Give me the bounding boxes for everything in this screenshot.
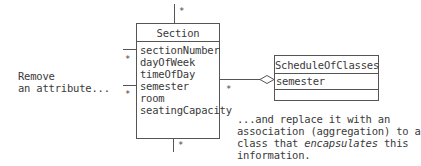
annotation-replace-line1: ...and replace it with an: [237, 113, 390, 125]
annotation-replace-line2: association (aggregation) to a: [237, 125, 421, 137]
section-attr-timeOfDay: timeOfDay: [140, 68, 195, 80]
schedule-class-name: ScheduleOfClasses: [275, 59, 378, 71]
annotation-line3-post: this: [378, 137, 409, 149]
multiplicity-top: *: [179, 6, 184, 16]
annotation-encapsulates-emphasis: encapsulates: [304, 137, 377, 149]
schedule-header-divider: [275, 73, 378, 74]
section-header-divider: [137, 41, 219, 42]
section-attr-seatingCapacity: seatingCapacity: [140, 104, 232, 116]
aggregation-diamond-icon: [260, 76, 274, 84]
section-attr-sectionNumber: sectionNumber: [140, 44, 220, 56]
multiplicity-bottom: *: [178, 140, 183, 150]
annotation-replace-line3: class that encapsulates this: [237, 137, 408, 149]
annotation-remove-line2: an attribute...: [18, 82, 110, 94]
annotation-remove-line1: Remove: [18, 70, 55, 82]
multiplicity-left-lower: *: [125, 89, 130, 99]
annotation-line3-pre: class that: [237, 137, 304, 149]
multiplicity-left-upper: *: [125, 54, 130, 64]
multiplicity-aggregation: *: [226, 84, 231, 94]
section-class-box: Section sectionNumber dayOfWeek timeOfDa…: [136, 23, 220, 139]
section-attr-dayOfWeek: dayOfWeek: [140, 56, 195, 68]
schedule-attr-semester: semester: [276, 75, 325, 87]
schedule-of-classes-box: ScheduleOfClasses semester: [274, 55, 379, 101]
schedule-operations-divider: [275, 89, 378, 90]
annotation-replace-line4: information.: [237, 149, 310, 161]
section-attr-semester: semester: [140, 80, 189, 92]
section-class-name: Section: [137, 27, 219, 39]
section-attr-room: room: [140, 92, 165, 104]
